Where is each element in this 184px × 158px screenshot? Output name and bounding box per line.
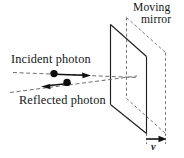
velocity-label: v [151,142,156,153]
incident-photon-ray [13,73,137,79]
incident-ray-arrowhead [82,73,91,79]
mirror-velocity-indicator [147,134,167,145]
reflected-ray-guide-line [10,76,137,93]
incident-ray-arrow-shaft [54,74,85,75]
reflected-photon-ray [10,76,137,93]
incident-photon-label: Incident photon [11,53,91,66]
incident-photon-dot [50,70,57,77]
mirror-current-top-edge [111,25,147,57]
reflected-photon-label: Reflected photon [19,94,106,107]
velocity-arrowhead [159,136,167,142]
mirror-current-bottom-edge [111,105,147,134]
physics-figure-moving-mirror: Incident photon Reflected photon Moving … [0,0,184,158]
moving-mirror-label-line2: mirror [141,14,171,26]
reflected-photon-dot [63,79,70,86]
reflected-ray-arrowhead [41,84,51,89]
